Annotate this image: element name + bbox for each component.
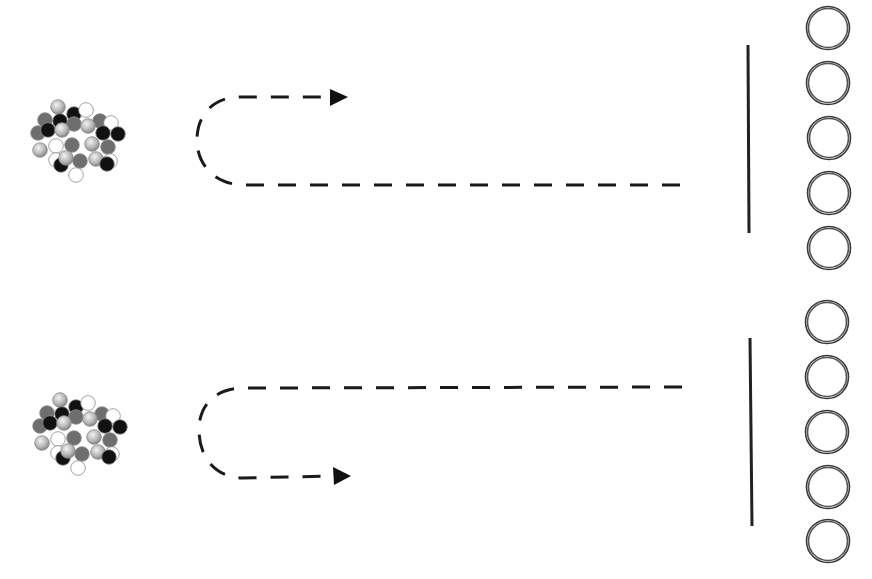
particle xyxy=(49,139,64,154)
particle xyxy=(65,138,80,153)
detector-ring-icon xyxy=(809,9,848,48)
detector-ring-icon xyxy=(807,520,850,563)
particle xyxy=(51,100,66,115)
particle xyxy=(96,126,111,141)
particle xyxy=(55,123,70,138)
particle xyxy=(102,450,117,465)
particle xyxy=(101,140,116,155)
particle xyxy=(51,432,66,447)
barrier-top xyxy=(748,45,749,233)
detector-ring-icon xyxy=(810,174,849,213)
detector-ring-icon xyxy=(808,358,847,397)
detector-ring-icon xyxy=(808,303,847,342)
particle xyxy=(33,143,48,158)
detector-ring-icon xyxy=(810,119,849,158)
particle xyxy=(83,412,98,427)
detector-ring-icon xyxy=(808,172,851,215)
detector-ring-icon xyxy=(806,411,849,454)
detector-rings-top xyxy=(807,7,851,270)
particle xyxy=(79,103,94,118)
barrier-bottom xyxy=(750,338,752,526)
particle xyxy=(98,419,113,434)
trajectory-top xyxy=(197,89,680,185)
detector-ring-icon xyxy=(808,413,847,452)
particle-cluster-bottom xyxy=(33,393,128,476)
particle-cluster-top xyxy=(31,100,126,183)
particle xyxy=(87,430,102,445)
detector-ring-icon xyxy=(809,522,848,561)
particle xyxy=(111,127,126,142)
detector-rings-bottom xyxy=(806,301,850,563)
detector-ring-icon xyxy=(808,117,851,160)
particle xyxy=(53,393,68,408)
detector-ring-icon xyxy=(806,301,849,344)
particle xyxy=(57,416,72,431)
particle xyxy=(85,137,100,152)
particle xyxy=(35,436,50,451)
arrowhead-icon xyxy=(333,467,351,485)
particle xyxy=(67,431,82,446)
particle xyxy=(75,447,90,462)
arrowhead-icon xyxy=(330,89,348,106)
particle xyxy=(43,416,58,431)
particle xyxy=(103,433,118,448)
particle xyxy=(59,151,74,166)
detector-ring-icon xyxy=(808,227,851,270)
detector-ring-icon xyxy=(807,62,850,105)
particle xyxy=(81,119,96,134)
particle xyxy=(81,396,96,411)
particle xyxy=(69,168,84,183)
detector-ring-icon xyxy=(807,466,850,509)
trajectory-bottom xyxy=(199,387,682,485)
detector-ring-icon xyxy=(807,7,850,50)
detector-ring-icon xyxy=(810,229,849,268)
particle xyxy=(73,154,88,169)
diagram-canvas xyxy=(0,0,872,579)
detector-ring-icon xyxy=(806,356,849,399)
detector-ring-icon xyxy=(809,468,848,507)
particle xyxy=(71,461,86,476)
particle xyxy=(100,157,115,172)
particle xyxy=(41,123,56,138)
detector-ring-icon xyxy=(809,64,848,103)
particle xyxy=(113,420,128,435)
particle xyxy=(61,444,76,459)
